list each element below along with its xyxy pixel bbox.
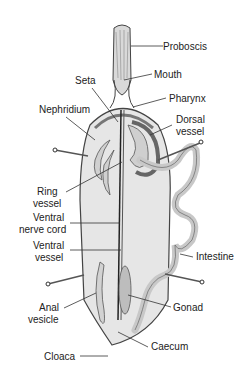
label-ventral-nerve-cord-line2: nerve cord [19, 224, 66, 235]
label-mouth: Mouth [154, 69, 182, 80]
label-nephridium: Nephridium [39, 104, 90, 115]
label-caecum: Caecum [151, 341, 188, 352]
label-dorsal-vessel-line2: vessel [176, 126, 204, 137]
label-intestine: Intestine [196, 251, 234, 262]
label-proboscis: Proboscis [163, 41, 207, 52]
leader-pharynx [133, 98, 166, 107]
label-anal-vesicle-line2: vesicle [28, 314, 59, 325]
label-cloaca: Cloaca [44, 351, 76, 362]
label-ring-vessel-line1: Ring [37, 186, 58, 197]
label-ventral-vessel-line2: vessel [35, 252, 63, 263]
label-ventral-vessel-line1: Ventral [33, 240, 64, 251]
leader-intestine [180, 254, 193, 257]
label-ring-vessel-line2: vessel [33, 198, 61, 209]
gonad-shape [119, 266, 131, 314]
anatomy-diagram: Proboscis Mouth Seta Pharynx Nephridium … [0, 0, 247, 382]
label-dorsal-vessel-line1: Dorsal [176, 114, 205, 125]
label-seta: Seta [75, 75, 96, 86]
label-ventral-nerve-cord-line1: Ventral [33, 212, 64, 223]
label-pharynx: Pharynx [169, 93, 206, 104]
label-gonad: Gonad [173, 302, 203, 313]
proboscis-shape [110, 25, 134, 108]
label-anal-vesicle-line1: Anal [39, 302, 59, 313]
